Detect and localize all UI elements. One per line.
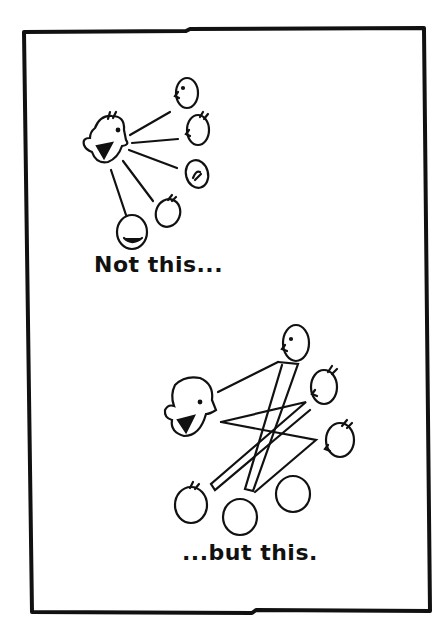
face-bottom-middle <box>223 499 257 535</box>
listener-face-1 <box>175 78 198 108</box>
face-right-2 <box>325 420 354 457</box>
caption-not-this: Not this... <box>94 252 223 277</box>
face-left <box>165 377 216 436</box>
speaker-face <box>84 112 128 162</box>
listener-face-5 <box>117 215 147 249</box>
face-right-1 <box>311 366 337 404</box>
listener-face-2 <box>186 112 209 145</box>
frame <box>24 28 430 613</box>
face-bottom-left <box>175 482 207 523</box>
face-top <box>282 325 309 361</box>
illustration <box>0 0 448 629</box>
bottom-scene <box>165 325 354 535</box>
listener-face-4 <box>152 195 184 230</box>
caption-but-this: ...but this. <box>182 540 318 565</box>
face-bottom-right <box>276 476 310 512</box>
top-scene <box>84 78 212 249</box>
listener-face-3 <box>183 158 211 191</box>
